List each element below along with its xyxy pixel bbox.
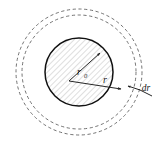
figure-container: r 0 r dr <box>0 0 168 150</box>
shell-radius-label: r <box>103 74 107 85</box>
shell-thickness-label: dr <box>142 83 151 93</box>
spherical-shell-diagram: r 0 r dr <box>0 0 168 150</box>
core-radius-label-base: r <box>77 66 81 77</box>
